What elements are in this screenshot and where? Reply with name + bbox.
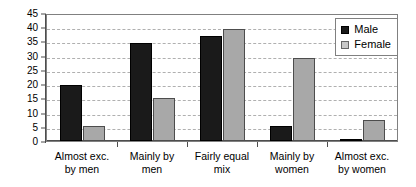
bar-female [363, 120, 385, 141]
y-axis-tick-label: 15 [27, 94, 38, 104]
bar-male [60, 85, 82, 141]
y-axis-tick-label: 45 [27, 9, 38, 19]
legend-item: Female [341, 37, 391, 52]
bar-female [223, 29, 245, 141]
bar-female [153, 98, 175, 142]
bar-chart: 454035302520151050 Almost exc. by menMai… [0, 0, 416, 187]
male-swatch-icon [341, 26, 349, 34]
x-axis-category-label: Fairly equal mix [187, 150, 257, 176]
x-axis: Almost exc. by menMainly by menFairly eq… [46, 150, 398, 187]
bar-female [293, 58, 315, 141]
y-axis-tick-label: 20 [27, 80, 38, 90]
legend-item-label: Male [354, 24, 378, 35]
x-axis-category-label: Almost exc. by men [47, 150, 117, 176]
x-axis-tick-mark [327, 142, 328, 147]
y-axis-tick-label: 0 [32, 137, 38, 147]
y-axis: 454035302520151050 [0, 0, 46, 143]
y-axis-tick-label: 25 [27, 66, 38, 76]
bar-male [130, 43, 152, 141]
x-axis-category-label: Mainly by women [257, 150, 327, 176]
bar-male [200, 36, 222, 141]
bar-group [257, 15, 327, 141]
bar-male [270, 126, 292, 141]
y-axis-tick-label: 10 [27, 109, 38, 119]
x-axis-category-label: Mainly by men [117, 150, 187, 176]
legend-item-label: Female [354, 39, 391, 50]
x-axis-tick-mark [187, 142, 188, 147]
legend-item: Male [341, 22, 391, 37]
y-axis-tick-label: 40 [27, 23, 38, 33]
chart-legend: MaleFemale [335, 18, 398, 56]
x-axis-tick-mark [257, 142, 258, 147]
x-axis-category-label: Almost exc. by women [327, 150, 397, 176]
bar-group [117, 15, 187, 141]
y-axis-tick-label: 5 [32, 123, 38, 133]
x-axis-tick-mark [117, 142, 118, 147]
female-swatch-icon [341, 41, 349, 49]
bar-female [83, 126, 105, 141]
bar-group [187, 15, 257, 141]
bar-group [47, 15, 117, 141]
x-axis-ticks [47, 142, 397, 147]
y-axis-tick-label: 35 [27, 37, 38, 47]
y-axis-tick-label: 30 [27, 52, 38, 62]
bar-male [340, 139, 362, 141]
